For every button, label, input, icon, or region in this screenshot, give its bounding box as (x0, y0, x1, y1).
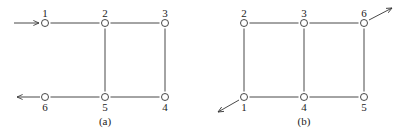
node-label-1: 1 (42, 7, 48, 19)
node-label-3: 3 (162, 7, 168, 19)
caption-b: (b) (298, 115, 311, 128)
caption-a: (a) (99, 115, 112, 128)
node-1 (42, 20, 49, 27)
node-6 (42, 94, 49, 101)
node-label-6: 6 (42, 101, 48, 113)
node-label-4: 4 (301, 101, 307, 113)
node-label-2: 2 (241, 7, 247, 19)
graph-diagrams-canvas: 123654(a) 236145(b) (0, 0, 406, 139)
node-label-6: 6 (361, 7, 367, 19)
node-label-4: 4 (162, 101, 168, 113)
output-arrow-node6-icon (369, 8, 392, 20)
node-2 (102, 20, 109, 27)
node-2 (241, 20, 248, 27)
node-5 (361, 94, 368, 101)
diagram-b: 236145(b) (218, 7, 392, 128)
node-6 (361, 20, 368, 27)
node-label-3: 3 (301, 7, 307, 19)
node-label-5: 5 (361, 101, 367, 113)
node-5 (102, 94, 109, 101)
node-3 (162, 20, 169, 27)
node-4 (162, 94, 169, 101)
node-4 (301, 94, 308, 101)
output-arrow-node1-icon (218, 100, 239, 112)
node-3 (301, 20, 308, 27)
node-label-5: 5 (102, 101, 108, 113)
node-label-2: 2 (102, 7, 108, 19)
diagram-a: 123654(a) (14, 7, 169, 128)
node-1 (241, 94, 248, 101)
node-label-1: 1 (241, 101, 247, 113)
